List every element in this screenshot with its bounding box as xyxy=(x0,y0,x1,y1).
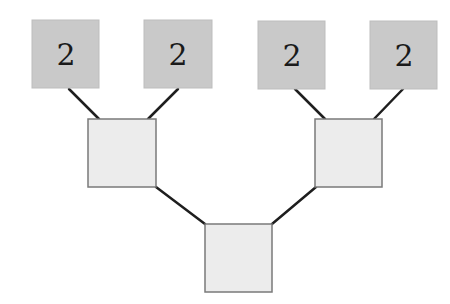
internal-node-right xyxy=(315,119,382,187)
leaf-node-2: 2 xyxy=(144,20,212,88)
edge-left-to-root xyxy=(156,187,205,224)
leaf-label: 2 xyxy=(56,37,75,72)
leaf-label: 2 xyxy=(394,38,413,73)
node-box xyxy=(88,119,156,187)
leaf-label: 2 xyxy=(282,38,301,73)
leaf-node-1: 2 xyxy=(32,20,99,88)
leaf-label: 2 xyxy=(168,37,187,72)
leaf-node-3: 2 xyxy=(258,21,325,89)
edge-leaf2-to-left xyxy=(148,89,178,119)
binary-tree-diagram: 2 2 2 2 xyxy=(0,0,450,304)
root-node xyxy=(205,224,272,292)
edge-right-to-root xyxy=(272,187,316,224)
internal-node-left xyxy=(88,119,156,187)
root-box xyxy=(205,224,272,292)
leaf-node-4: 2 xyxy=(370,21,437,89)
edge-leaf3-to-right xyxy=(295,89,325,119)
edge-leaf4-to-right xyxy=(374,89,403,119)
edge-leaf1-to-left xyxy=(69,89,99,119)
node-box xyxy=(315,119,382,187)
